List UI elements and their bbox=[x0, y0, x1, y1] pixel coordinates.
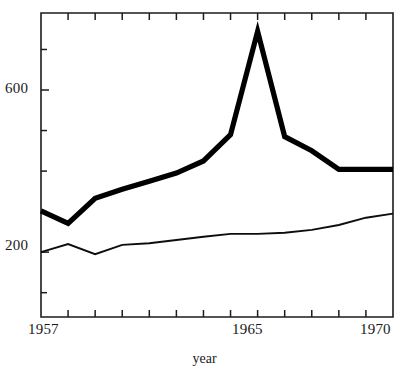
x-tick-label-1957: 1957 bbox=[28, 321, 59, 338]
x-axis-title: year bbox=[0, 351, 409, 367]
line-chart-plot bbox=[0, 0, 409, 378]
chart-figure: 600 200 1957 1965 1970 year bbox=[0, 0, 409, 378]
x-axis-ticks-top bbox=[68, 13, 366, 20]
x-tick-label-1970: 1970 bbox=[360, 321, 391, 338]
plot-frame bbox=[41, 13, 393, 317]
y-tick-label-200: 200 bbox=[5, 237, 28, 254]
axis-frame-path bbox=[41, 13, 393, 317]
x-axis-ticks-bottom bbox=[68, 310, 366, 317]
data-line-thin bbox=[41, 214, 393, 255]
y-tick-label-600: 600 bbox=[5, 80, 28, 97]
data-line-thick bbox=[41, 31, 393, 223]
x-tick-label-1965: 1965 bbox=[232, 321, 263, 338]
y-axis-ticks bbox=[41, 49, 49, 292]
